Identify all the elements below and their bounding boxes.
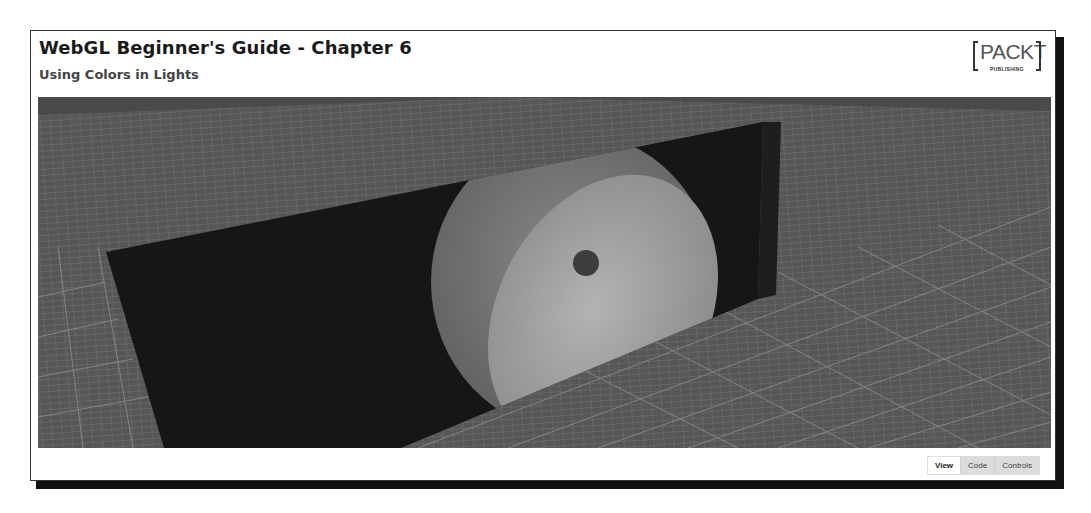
page-subtitle: Using Colors in Lights bbox=[39, 67, 199, 82]
webgl-canvas[interactable] bbox=[38, 97, 1051, 448]
tab-view[interactable]: View bbox=[928, 457, 960, 474]
logo-tagline: PUBLISHING bbox=[980, 66, 1034, 72]
view-tabs: View Code Controls bbox=[927, 456, 1040, 475]
tab-controls[interactable]: Controls bbox=[994, 457, 1039, 474]
logo-left-bracket bbox=[973, 41, 978, 71]
tab-code[interactable]: Code bbox=[960, 457, 994, 474]
page-frame: WebGL Beginner's Guide - Chapter 6 Using… bbox=[30, 30, 1056, 481]
packt-logo: PACKT PUBLISHING bbox=[973, 39, 1041, 77]
light-source-dot bbox=[573, 250, 599, 276]
logo-right-bracket bbox=[1036, 41, 1041, 71]
logo-word: PACKT bbox=[980, 40, 1034, 64]
page-title: WebGL Beginner's Guide - Chapter 6 bbox=[39, 37, 412, 58]
